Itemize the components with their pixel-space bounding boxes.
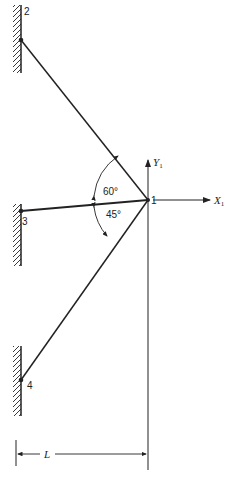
wall-support-3 [13, 204, 21, 266]
y-axis-label: Y1 [153, 156, 163, 170]
angle-label-45: 45° [106, 209, 121, 220]
x-axis-label: X1 [213, 194, 225, 208]
angle-label-60: 60° [103, 186, 118, 197]
truss-diagram: 2 1 3 4 60° 45° X1 Y1 L [0, 0, 233, 480]
node-2 [19, 38, 24, 43]
dimension-label-L: L [43, 448, 50, 460]
node-label-4: 4 [27, 380, 33, 391]
node-3 [19, 209, 24, 214]
member-1-2 [21, 40, 148, 200]
member-1-3 [21, 200, 148, 211]
node-label-2: 2 [24, 6, 30, 17]
member-1-4 [21, 200, 148, 380]
node-label-1: 1 [151, 195, 157, 206]
node-4 [19, 378, 24, 383]
node-label-3: 3 [22, 216, 28, 227]
